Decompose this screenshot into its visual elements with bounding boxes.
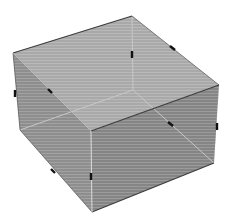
diagram-canvas: Transparent rectangular box (cuboid) wit… bbox=[0, 0, 227, 224]
texture-overlay bbox=[13, 16, 219, 212]
box-figure bbox=[0, 0, 227, 224]
